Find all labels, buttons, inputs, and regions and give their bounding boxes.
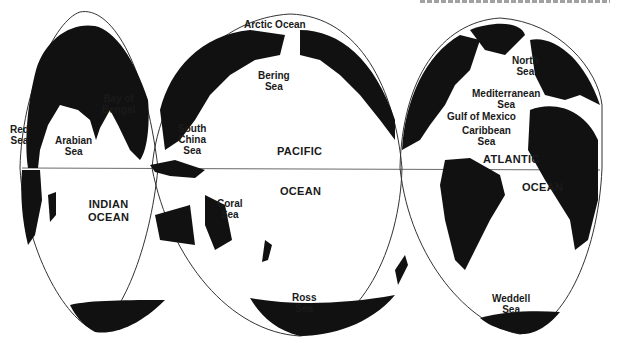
label-mediterranean-sea: Mediterranean Sea: [472, 88, 540, 110]
land-greenland: [470, 24, 525, 55]
label-arctic-ocean: Arctic Ocean: [244, 19, 306, 30]
label-indian-ocean: INDIAN OCEAN: [88, 198, 129, 224]
land-south-america: [440, 158, 505, 270]
label-pacific: PACIFIC: [277, 145, 322, 158]
land-madagascar: [48, 192, 56, 222]
land-antarctica-c: [250, 295, 395, 336]
label-atlantic-ocean: OCEAN: [522, 181, 563, 194]
label-bay-of-bengal: Bay of Bengal: [102, 93, 135, 115]
land-australia-w: [155, 205, 195, 245]
land-indonesia: [150, 160, 205, 178]
land-new-zealand: [262, 240, 272, 262]
label-caribbean-sea: Caribbean Sea: [462, 125, 511, 147]
label-atlantic: ATLANTIC: [483, 153, 540, 166]
label-bering-sea: Bering Sea: [258, 70, 290, 92]
label-arabian-sea: Arabian Sea: [55, 135, 92, 157]
equator-line: [22, 168, 600, 170]
land-antarctica-w: [70, 300, 165, 333]
land-africa-south: [21, 170, 42, 245]
land-south-america-tip: [395, 255, 408, 285]
label-north-sea: North Sea: [512, 55, 539, 77]
label-gulf-of-mexico: Gulf of Mexico: [447, 111, 516, 122]
label-coral-sea: Coral Sea: [217, 198, 243, 220]
label-red-sea: Red Sea: [10, 124, 29, 146]
land-north-america-w: [300, 30, 395, 140]
label-weddell-sea: Weddell Sea: [492, 293, 530, 315]
label-pacific-ocean: OCEAN: [280, 185, 321, 198]
label-south-china-sea: South China Sea: [178, 123, 206, 156]
land-africa-w: [528, 106, 598, 250]
label-ross-sea: Ross Sea: [292, 292, 316, 314]
